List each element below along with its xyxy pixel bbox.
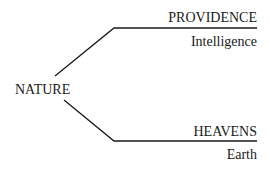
lower-branch-label: HEAVENS: [193, 125, 257, 139]
root-node-label: NATURE: [15, 83, 70, 97]
lower-branch-sublabel: Earth: [227, 148, 257, 162]
upper-branch-label: PROVIDENCE: [168, 11, 257, 25]
upper-branch-sublabel: Intelligence: [191, 35, 257, 49]
